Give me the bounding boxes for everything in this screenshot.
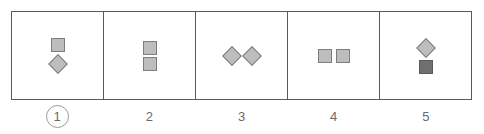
shape-square-light <box>143 57 157 71</box>
option-label-slot-5[interactable]: 5 <box>380 101 472 132</box>
option-label-1: 1 <box>53 110 60 123</box>
option-cell-4[interactable] <box>288 12 380 99</box>
option-label-slot-2[interactable]: 2 <box>103 101 195 132</box>
shape-square-light <box>336 49 350 63</box>
option-cell-1[interactable] <box>12 12 104 99</box>
shape-cluster-1 <box>51 38 65 74</box>
shape-diamond-light <box>48 54 68 74</box>
shape-cluster-5 <box>419 38 433 74</box>
option-label-2: 2 <box>146 110 153 123</box>
shape-cluster-2 <box>143 41 157 71</box>
shape-diamond-light <box>416 38 436 58</box>
option-cell-2[interactable] <box>104 12 196 99</box>
option-label-3: 3 <box>238 110 245 123</box>
option-cell-3[interactable] <box>196 12 288 99</box>
shape-square-light <box>318 49 332 63</box>
option-labels-row: 1 2 3 4 5 <box>11 101 472 132</box>
shape-cluster-4 <box>318 49 350 63</box>
option-label-slot-3[interactable]: 3 <box>195 101 287 132</box>
option-label-5: 5 <box>422 110 429 123</box>
shape-cluster-3 <box>224 49 260 63</box>
option-label-4: 4 <box>330 110 337 123</box>
shape-diamond-light <box>222 46 242 66</box>
shape-diamond-light <box>242 46 262 66</box>
option-label-slot-1[interactable]: 1 <box>11 101 103 132</box>
option-label-slot-4[interactable]: 4 <box>288 101 380 132</box>
shape-square-light <box>143 41 157 55</box>
options-grid <box>11 11 472 100</box>
shape-square-dark <box>419 60 433 74</box>
option-cell-5[interactable] <box>380 12 471 99</box>
shape-square-light <box>51 38 65 52</box>
answer-options-row: 1 2 3 4 5 <box>0 0 484 134</box>
